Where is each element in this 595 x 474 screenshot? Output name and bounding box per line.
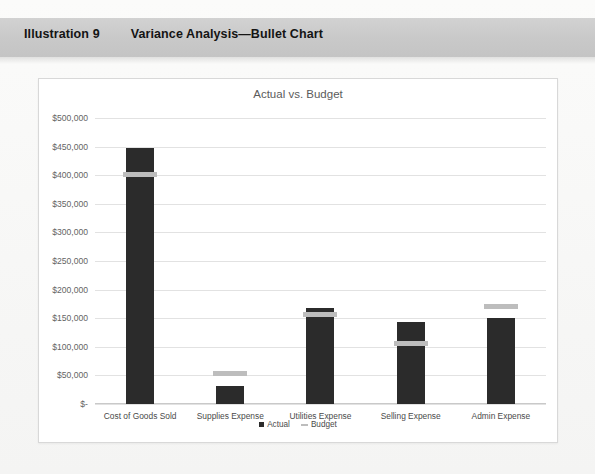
caption-band-shadow xyxy=(0,57,595,64)
y-axis-tick-label: $150,000 xyxy=(52,313,88,323)
y-axis-tick-label: $50,000 xyxy=(57,370,88,380)
bar-slot: Admin Expense xyxy=(456,118,546,404)
legend-dash-icon xyxy=(301,424,308,426)
budget-marker[interactable] xyxy=(303,312,337,317)
caption-inner: Illustration 9 Variance Analysis—Bullet … xyxy=(24,27,323,41)
bar-slot: Utilities Expense xyxy=(275,118,365,404)
budget-marker[interactable] xyxy=(213,371,247,376)
bar-slot: Cost of Goods Sold xyxy=(95,118,185,404)
illustration-title: Variance Analysis—Bullet Chart xyxy=(131,27,323,41)
y-axis-tick-label: $500,000 xyxy=(52,113,88,123)
y-axis-tick-label: $200,000 xyxy=(52,285,88,295)
illustration-number: Illustration 9 xyxy=(24,27,100,41)
actual-bar[interactable] xyxy=(487,318,515,404)
y-axis-tick-label: $450,000 xyxy=(52,142,88,152)
chart-legend: ActualBudget xyxy=(39,420,557,429)
y-axis-tick-label: $400,000 xyxy=(52,170,88,180)
actual-bar[interactable] xyxy=(126,148,154,404)
y-axis-tick-label: $- xyxy=(80,399,88,409)
legend-item[interactable]: Budget xyxy=(301,420,337,429)
gridline xyxy=(95,404,546,405)
plot-area: $-$50,000$100,000$150,000$200,000$250,00… xyxy=(95,118,546,404)
y-axis-tick-label: $100,000 xyxy=(52,342,88,352)
y-axis-tick-label: $300,000 xyxy=(52,227,88,237)
actual-bar[interactable] xyxy=(397,322,425,404)
legend-square-icon xyxy=(259,422,264,427)
y-axis-tick-label: $250,000 xyxy=(52,256,88,266)
legend-label: Actual xyxy=(267,420,290,429)
illustration-caption-band: Illustration 9 Variance Analysis—Bullet … xyxy=(0,18,595,57)
legend-item[interactable]: Actual xyxy=(259,420,290,429)
y-axis-tick-label: $350,000 xyxy=(52,199,88,209)
budget-marker[interactable] xyxy=(394,341,428,346)
chart-panel: Actual vs. Budget $-$50,000$100,000$150,… xyxy=(38,78,558,443)
actual-bar[interactable] xyxy=(216,386,244,404)
bar-slot: Selling Expense xyxy=(366,118,456,404)
chart-title: Actual vs. Budget xyxy=(39,88,557,100)
actual-bar[interactable] xyxy=(306,308,334,404)
budget-marker[interactable] xyxy=(123,172,157,177)
budget-marker[interactable] xyxy=(484,304,518,309)
legend-label: Budget xyxy=(311,420,337,429)
bar-slot: Supplies Expense xyxy=(185,118,275,404)
